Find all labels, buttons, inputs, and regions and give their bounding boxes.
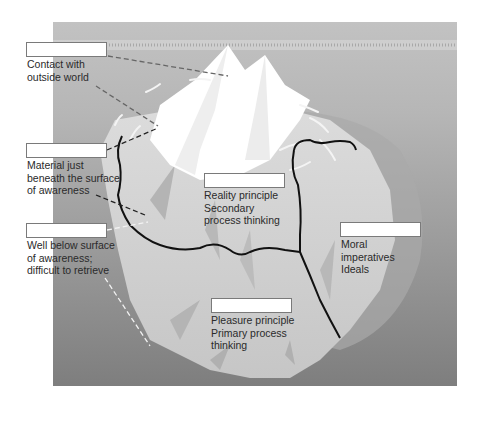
label-pleasure: Pleasure principle Primary process think… [211, 314, 294, 352]
label-contact: Contact with outside world [27, 58, 89, 83]
iceberg-diagram: Contact with outside world Material just… [0, 0, 479, 441]
label-line: Primary process [211, 327, 294, 340]
blank-label-box-reality[interactable] [204, 173, 285, 188]
label-line: of awareness; [27, 252, 115, 265]
label-line: Well below surface [27, 239, 115, 252]
label-line: Ideals [341, 263, 395, 276]
label-well-below: Well below surface of awareness; difficu… [27, 239, 115, 277]
label-line: Reality principle [204, 189, 280, 202]
blank-label-box-well-below[interactable] [26, 223, 107, 238]
label-line: Contact with [27, 58, 89, 71]
label-line: imperatives [341, 251, 395, 264]
label-line: thinking [211, 339, 294, 352]
label-line: Secondary [204, 202, 280, 215]
label-line: Material just [27, 159, 120, 172]
blank-label-box-material[interactable] [26, 143, 107, 158]
label-line: Moral [341, 238, 395, 251]
label-line: difficult to retrieve [27, 264, 115, 277]
blank-label-box-pleasure[interactable] [211, 298, 292, 313]
horizon-line [53, 40, 457, 50]
label-line: beneath the surface [27, 172, 120, 185]
label-moral: Moral imperatives Ideals [341, 238, 395, 276]
blank-label-box-moral[interactable] [340, 222, 421, 237]
label-line: outside world [27, 71, 89, 84]
label-line: process thinking [204, 214, 280, 227]
label-line: Pleasure principle [211, 314, 294, 327]
blank-label-box-contact[interactable] [26, 42, 107, 57]
label-line: of awareness [27, 184, 120, 197]
label-reality: Reality principle Secondary process thin… [204, 189, 280, 227]
label-material: Material just beneath the surface of awa… [27, 159, 120, 197]
